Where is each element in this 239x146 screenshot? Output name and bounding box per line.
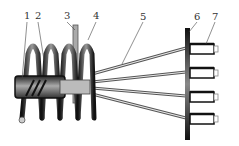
wire-bundle [92,48,186,118]
coil-assembly-diagram: 1 2 3 4 5 6 7 [0,0,239,146]
label-7: 7 [212,12,218,22]
diagram-canvas [0,0,239,146]
label-4: 4 [93,11,99,21]
label-1: 1 [24,11,30,21]
label-3: 3 [64,11,70,21]
label-5: 5 [140,12,146,22]
connector-hub [60,80,90,94]
label-6: 6 [194,12,200,22]
label-2: 2 [35,11,41,21]
core [15,76,65,98]
terminals [190,44,218,124]
